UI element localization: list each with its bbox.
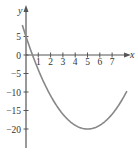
parabola-curve <box>22 25 127 129</box>
y-tick-label: 5 <box>16 32 21 42</box>
tick-labels: 123456750−5−10−15−20 <box>6 32 115 135</box>
y-tick-label: −10 <box>6 88 21 98</box>
y-tick-label: −20 <box>6 125 21 135</box>
y-tick-label: −15 <box>6 106 21 116</box>
y-tick-label: 0 <box>16 51 21 61</box>
x-axis-label: x <box>129 49 135 60</box>
y-axis-arrow-icon <box>24 5 29 12</box>
y-axis-label: y <box>17 5 23 16</box>
x-tick-label: 2 <box>48 57 53 67</box>
parabola-chart: 123456750−5−10−15−20 x y <box>0 0 138 152</box>
x-tick-label: 7 <box>110 57 115 67</box>
x-tick-label: 5 <box>85 57 90 67</box>
y-tick-label: −5 <box>11 69 21 79</box>
x-tick-label: 4 <box>73 57 78 67</box>
ticks <box>24 37 113 130</box>
x-tick-label: 3 <box>61 57 66 67</box>
x-tick-label: 6 <box>97 57 102 67</box>
